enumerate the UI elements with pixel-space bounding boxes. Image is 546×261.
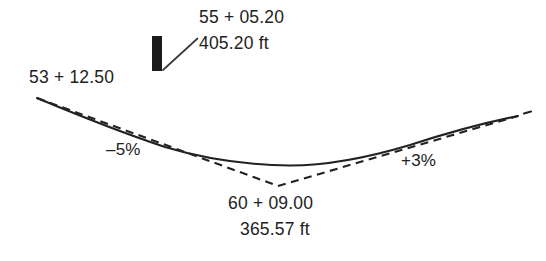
bvc-station-label: 53 + 12.50: [29, 69, 114, 87]
pvi-station-marker-icon: [152, 36, 162, 71]
low-point-station-label: 60 + 09.00: [228, 195, 313, 213]
pvi-station-label: 55 + 05.20: [199, 9, 284, 27]
leader-line: [163, 39, 198, 71]
grade-in-label: –5%: [106, 141, 141, 158]
grade-out-label: +3%: [401, 152, 436, 169]
low-point-elevation-label: 365.57 ft: [240, 221, 310, 239]
vertical-curve-diagram: 55 + 05.20 405.20 ft 53 + 12.50 –5% +3% …: [0, 0, 546, 261]
tail-tick-icon: [524, 112, 531, 114]
grade-out-tangent: [278, 116, 518, 186]
grade-in-tangent: [37, 98, 278, 186]
pvi-elevation-label: 405.20 ft: [199, 35, 269, 53]
